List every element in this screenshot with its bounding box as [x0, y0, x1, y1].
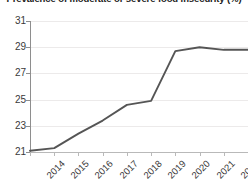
y-axis-tick-label: 23	[4, 121, 26, 131]
x-tick-mark	[151, 152, 152, 156]
x-axis-tick-label: 2018	[141, 158, 164, 181]
y-axis-tick-label: 25	[4, 95, 26, 105]
x-axis-tick-label: 2020	[189, 158, 212, 181]
y-axis-tick-label: 31	[4, 16, 26, 26]
x-tick-mark	[78, 152, 79, 156]
y-axis-tick-label: 27	[4, 68, 26, 78]
x-axis-tick-label: 2016	[93, 158, 116, 181]
x-axis-tick-label: 2021	[214, 158, 237, 181]
data-series-line	[30, 21, 248, 152]
x-tick-mark	[30, 152, 31, 156]
y-axis-tick-label: 21	[4, 147, 26, 157]
x-axis-line	[30, 152, 248, 153]
line-chart: Prevalence of moderate or severe food in…	[0, 0, 248, 184]
x-tick-mark	[200, 152, 201, 156]
x-axis-tick-label: 2015	[68, 158, 91, 181]
x-tick-mark	[127, 152, 128, 156]
x-axis-tick-label: 2019	[165, 158, 188, 181]
x-tick-mark	[175, 152, 176, 156]
x-tick-mark	[103, 152, 104, 156]
x-axis-tick-label: 2014	[44, 158, 67, 181]
x-axis-tick-label: 2017	[117, 158, 140, 181]
x-tick-mark	[54, 152, 55, 156]
y-axis-tick-label: 29	[4, 42, 26, 52]
chart-title: Prevalence of moderate or severe food in…	[0, 0, 248, 4]
x-axis-tick-label: 2022	[238, 158, 248, 181]
x-tick-mark	[224, 152, 225, 156]
